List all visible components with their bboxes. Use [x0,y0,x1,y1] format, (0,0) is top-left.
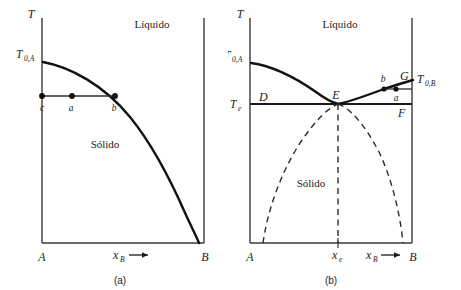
panel-a: T T 0,A Líquido Sólido c a b A B x B [0,0,230,290]
point-a-marker-b [393,86,398,91]
point-label-e-b: E [331,88,340,102]
axis-corner-label-a-right: B [201,250,209,264]
liquidus-right-branch-b [338,80,413,104]
point-b-marker [112,93,118,99]
x-axis-base-b: x [365,248,372,262]
temperature-label-t0b-b: T 0,B [417,73,436,88]
panel-a-diagram: T T 0,A Líquido Sólido c a b A B x B [0,0,230,290]
t0a-sub-a: 0,A [24,54,35,63]
t0b-base-b: T [417,73,425,85]
y-axis-label-a: T [28,7,36,21]
temperature-label-t0a-b: T 0,A [228,49,243,64]
t0b-sub-b: 0,B [425,79,436,88]
xe-sub-b: e [339,255,343,264]
point-label-g-b: G [400,69,409,83]
panel-b-diagram: T T 0,A T 0,B T e Líquido Sólido D E F [228,0,461,290]
liquidus-curve-a [43,62,199,243]
axis-corner-label-a-left: A [37,250,46,264]
panel-b: T T 0,A T 0,B T e Líquido Sólido D E F [228,0,461,290]
temperature-label-te-b: T e [230,98,242,113]
x-axis-sub-b: B [373,255,378,264]
phase-diagram-figure: T T 0,A Líquido Sólido c a b A B x B [0,0,461,290]
x-axis-sub-a: B [120,255,125,264]
point-label-d-b: D [258,90,268,104]
point-b-marker-b [381,86,386,91]
t0a-base-a: T [16,48,24,60]
point-label-a-b: a [394,93,399,103]
solvus-right-curve-b [338,104,403,243]
panel-caption-a: (a) [114,275,126,286]
region-label-solid-b: Sólido [297,177,326,189]
axis-corner-label-b-right: B [409,250,417,264]
point-label-f-b: F [397,106,406,120]
te-sub-b: e [238,104,242,113]
xe-base-b: x [331,248,338,262]
x-axis-label-a: x B [112,248,148,264]
x-axis-arrow-b [381,252,400,258]
axis-corner-label-b-left: A [245,250,254,264]
point-label-a-a: a [69,103,74,113]
point-c-marker [39,93,45,99]
region-label-liquid-a: Líquido [135,18,170,30]
point-label-c-a: c [40,103,45,113]
point-label-b-b: b [381,74,386,84]
y-axis-label-b: T [237,7,245,21]
x-axis-base-a: x [112,248,119,262]
point-label-b-a: b [112,103,117,113]
t0a-sub-b: 0,A [232,55,243,64]
temperature-label-t0a-a: T 0,A [16,48,35,63]
region-label-liquid-b: Líquido [323,18,358,30]
panel-caption-b: (b) [325,275,337,286]
x-axis-label-b: x B [365,248,400,264]
te-base-b: T [230,98,238,110]
point-a-marker [69,93,75,99]
eutectic-tick-label-b: x e [331,248,343,264]
solvus-left-curve-b [263,104,338,243]
x-axis-arrow-a [129,252,148,258]
region-label-solid-a: Sólido [91,138,120,150]
